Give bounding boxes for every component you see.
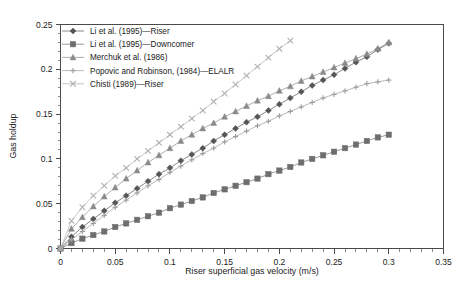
data-point-diamond <box>254 114 260 120</box>
data-point-square <box>134 217 139 222</box>
data-point-cross <box>255 64 261 70</box>
data-point-square <box>113 224 118 229</box>
data-point-cross <box>123 165 129 171</box>
data-point-square <box>123 221 128 226</box>
data-point-plus <box>386 77 391 82</box>
data-point-square <box>331 149 336 154</box>
figure-container: 00.050.10.150.20.250.30.35 00.050.10.150… <box>0 0 467 292</box>
data-point-triangle <box>101 193 107 199</box>
data-point-square <box>353 142 358 147</box>
data-point-plus <box>277 113 282 118</box>
data-point-square <box>200 195 205 200</box>
data-point-square <box>189 198 194 203</box>
gas-holdup-chart: 00.050.10.150.20.250.30.35 00.050.10.150… <box>0 0 467 292</box>
data-point-triangle <box>320 69 326 75</box>
data-point-diamond <box>189 151 195 157</box>
data-point-diamond <box>287 95 293 101</box>
legend-item-1: Li et al. (1995)—Downcomer <box>62 40 194 49</box>
legend-label: Popovic and Robinson, (1984)—ELALR <box>90 67 234 76</box>
data-point-triangle <box>123 175 129 181</box>
data-point-triangle <box>244 103 250 109</box>
data-point-diamond <box>309 82 315 88</box>
data-point-square <box>178 202 183 207</box>
data-point-triangle <box>167 145 173 151</box>
data-point-plus <box>91 221 96 226</box>
data-point-triangle <box>255 97 261 103</box>
x-tick-label: 0.25 <box>326 257 343 267</box>
data-point-triangle <box>178 138 184 144</box>
data-point-triangle <box>156 152 162 158</box>
data-point-cross <box>167 132 173 138</box>
data-point-plus <box>178 163 183 168</box>
data-point-cross <box>101 183 107 189</box>
data-point-cross <box>288 38 294 44</box>
data-point-plus <box>244 129 249 134</box>
data-point-diamond <box>276 101 282 107</box>
data-point-triangle <box>233 108 239 114</box>
legend-item-3: Popovic and Robinson, (1984)—ELALR <box>62 67 234 76</box>
legend-item-0: Li et al. (1995)—Riser <box>62 27 170 36</box>
data-point-plus <box>375 79 380 84</box>
data-point-cross <box>277 46 283 52</box>
data-point-square <box>320 153 325 158</box>
data-point-cross <box>266 55 272 61</box>
x-tick-label: 0.05 <box>107 257 124 267</box>
data-point-plus <box>102 213 107 218</box>
data-point-plus <box>266 119 271 124</box>
data-point-diamond <box>70 28 76 34</box>
data-point-cross <box>134 156 140 162</box>
data-point-plus <box>189 157 194 162</box>
data-point-diamond <box>200 145 206 151</box>
data-point-triangle <box>287 83 293 89</box>
data-point-square <box>167 205 172 210</box>
data-point-square <box>386 132 391 137</box>
data-point-triangle <box>222 114 228 120</box>
data-point-triangle <box>90 203 96 209</box>
x-axis-title: Riser superficial gas velocity (m/s) <box>185 266 319 276</box>
y-axis-ticks: 00.050.10.150.20.25 <box>36 20 61 254</box>
data-point-cross <box>80 204 86 210</box>
data-point-plus <box>135 190 140 195</box>
y-tick-label: 0 <box>48 244 53 254</box>
series-1 <box>58 132 392 251</box>
data-point-cross <box>91 193 97 199</box>
x-tick-label: 0.2 <box>273 257 285 267</box>
data-point-square <box>70 42 75 47</box>
data-point-square <box>375 135 380 140</box>
data-point-plus <box>156 177 161 182</box>
data-point-plus <box>233 134 238 139</box>
legend-label: Merchuk et al. (1986) <box>90 53 168 62</box>
x-tick-label: 0.1 <box>164 257 176 267</box>
data-point-triangle <box>331 64 337 70</box>
data-point-square <box>299 160 304 165</box>
data-point-triangle <box>364 51 370 57</box>
data-point-square <box>244 179 249 184</box>
series-line <box>61 80 389 248</box>
chart-legend: Li et al. (1995)—RiserLi et al. (1995)—D… <box>62 27 234 89</box>
y-tick-label: 0.25 <box>36 20 53 30</box>
y-tick-label: 0.2 <box>41 64 53 74</box>
data-point-plus <box>321 95 326 100</box>
data-point-triangle <box>70 54 76 60</box>
data-point-square <box>309 156 314 161</box>
data-point-triangle <box>276 88 282 94</box>
data-point-square <box>145 214 150 219</box>
data-point-square <box>342 145 347 150</box>
data-point-diamond <box>265 108 271 114</box>
data-point-triangle <box>112 184 118 190</box>
data-point-plus <box>145 183 150 188</box>
data-point-triangle <box>211 120 217 126</box>
data-point-plus <box>70 68 75 73</box>
data-point-plus <box>288 109 293 114</box>
data-point-triangle <box>189 132 195 138</box>
data-point-cross <box>233 82 239 88</box>
data-point-triangle <box>265 93 271 99</box>
data-point-plus <box>364 81 369 86</box>
data-point-cross <box>189 116 195 122</box>
y-tick-label: 0.05 <box>36 199 53 209</box>
data-point-square <box>222 187 227 192</box>
legend-item-2: Merchuk et al. (1986) <box>62 53 168 62</box>
data-point-diamond <box>222 132 228 138</box>
data-point-cross <box>222 91 228 97</box>
data-point-cross <box>156 140 162 146</box>
